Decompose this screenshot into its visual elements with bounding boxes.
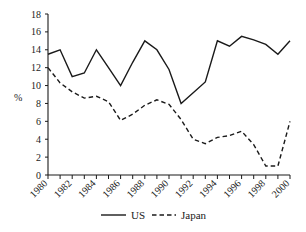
y-tick-label: 6 (36, 116, 41, 127)
x-tick-label: 1984 (76, 178, 98, 200)
x-tick-label: 1992 (173, 178, 195, 200)
legend-label-japan: Japan (181, 209, 207, 221)
line-chart: % 024681012141618 1980198219841986198819… (0, 0, 306, 232)
x-tick-label: 1996 (221, 178, 243, 200)
y-tick-label: 18 (31, 9, 41, 20)
chart-figure: % 024681012141618 1980198219841986198819… (0, 0, 306, 232)
y-axis-label-group: % (14, 92, 22, 103)
x-tick-label: 1982 (52, 178, 74, 200)
y-tick-label: 2 (36, 152, 41, 163)
x-tick-labels: 1980198219841986198819901992199419961998… (27, 178, 291, 200)
y-tick-label: 4 (36, 134, 41, 145)
x-tick-label: 1988 (124, 178, 146, 200)
x-tick-label: 1986 (100, 178, 122, 200)
series-line-japan (48, 68, 290, 166)
y-tick-label: 8 (36, 98, 41, 109)
legend-label-us: US (131, 209, 145, 221)
x-tick-label: 1990 (148, 178, 170, 200)
x-tick-label: 1980 (27, 178, 49, 200)
y-axis-label: % (14, 92, 22, 103)
series-line-us (48, 36, 290, 103)
y-tick-label: 16 (31, 26, 41, 37)
y-tick-label: 14 (31, 44, 41, 55)
legend: US Japan (101, 209, 207, 221)
y-tick-labels: 024681012141618 (31, 9, 41, 181)
x-tick-label: 1998 (245, 178, 267, 200)
x-tick-label: 1994 (197, 178, 219, 200)
y-tick-label: 10 (31, 80, 41, 91)
x-tick-label: 2000 (269, 178, 291, 200)
y-tick-label: 12 (31, 62, 41, 73)
x-tick-marks (48, 175, 290, 179)
